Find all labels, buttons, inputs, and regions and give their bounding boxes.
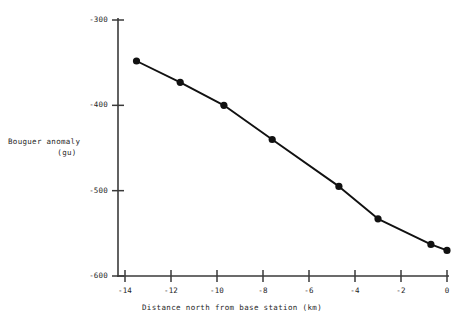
data-point-marker [443, 247, 450, 254]
x-tick-label: -2 [386, 286, 416, 295]
x-tick-label: -12 [156, 286, 186, 295]
x-tick-label: 0 [432, 286, 462, 295]
data-point-marker [374, 215, 381, 222]
y-tick-label: -500 [84, 186, 108, 195]
x-axis-label: Distance north from base station (km) [0, 303, 464, 312]
y-tick-label: -600 [84, 271, 108, 280]
y-axis-label-line2: (gu) [8, 147, 100, 158]
data-point-marker [220, 102, 227, 109]
x-tick-label: -8 [248, 286, 278, 295]
y-tick-label: -300 [84, 15, 108, 24]
y-axis-label: Bouguer anomaly (gu) [8, 136, 100, 158]
data-point-marker [269, 136, 276, 143]
data-point-marker [177, 79, 184, 86]
x-tick-label: -6 [294, 286, 324, 295]
y-tick-label: -400 [84, 100, 108, 109]
data-point-marker [133, 57, 140, 64]
data-line [137, 61, 448, 250]
data-point-marker [427, 241, 434, 248]
y-axis-label-line1: Bouguer anomaly [8, 136, 100, 147]
chart-figure: Bouguer anomaly (gu) Distance north from… [0, 0, 464, 325]
x-tick-label: -4 [340, 286, 370, 295]
data-markers [133, 57, 451, 254]
x-tick-label: -14 [110, 286, 140, 295]
x-tick-label: -10 [202, 286, 232, 295]
data-point-marker [335, 183, 342, 190]
chart-plot-area [0, 0, 464, 325]
